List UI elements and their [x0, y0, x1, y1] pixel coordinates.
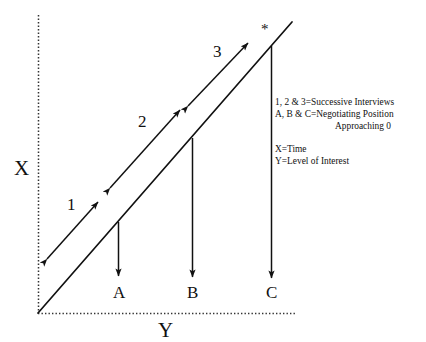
legend-line-approaching: Approaching 0 [275, 120, 425, 132]
interview-arrow-3-label: 3 [213, 43, 222, 60]
legend-line-x: X=Time [275, 143, 425, 155]
position-marker-a-label: A [113, 284, 125, 301]
position-marker-c-label: C [266, 284, 277, 301]
main-diagonal-line [38, 22, 292, 313]
interview-arrow-1-label: 1 [67, 196, 76, 213]
asterisk-marker: * [261, 22, 269, 37]
legend-line-interviews: 1, 2 & 3=Successive Interviews [275, 96, 425, 108]
x-axis-label: X [14, 158, 29, 179]
position-marker-b-label: B [187, 284, 198, 301]
legend-block: 1, 2 & 3=Successive Interviews A, B & C=… [275, 96, 425, 167]
interview-arrow-2-label: 2 [138, 113, 147, 130]
legend-line-y: Y=Level of Interest [275, 155, 425, 167]
diagram-canvas: X Y 1 2 3 * A B C 1, 2 & 3=Successive In… [0, 0, 426, 342]
legend-line-positions: A, B & C=Negotiating Position [275, 108, 425, 120]
y-axis-label: Y [158, 320, 173, 341]
legend-spacer [275, 133, 425, 143]
